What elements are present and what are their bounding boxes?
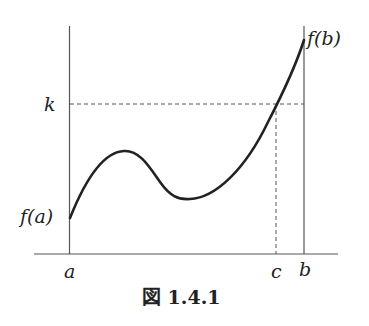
label-c: c: [271, 262, 282, 281]
figure-caption: 図 1.4.1: [142, 288, 221, 307]
label-f-a: f(a): [20, 207, 53, 226]
label-f-b: f(b): [307, 29, 341, 48]
label-k: k: [44, 95, 56, 114]
label-a: a: [64, 262, 75, 281]
label-b: b: [299, 260, 311, 279]
function-curve: [70, 40, 304, 218]
